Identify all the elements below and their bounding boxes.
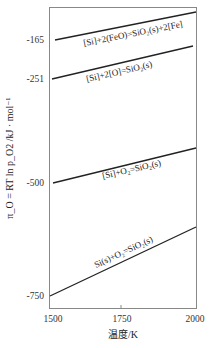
y-tick-label: -500 (27, 178, 45, 188)
plot-frame (50, 8, 197, 309)
x-axis-title: 温度/K (108, 328, 139, 340)
series-label: [Si]+2(FeO)=SiO₂(s)+2[Fe] (82, 19, 183, 48)
series-line-si-s-o2 (50, 227, 196, 296)
y-tick-label: -750 (27, 291, 45, 301)
series-label: [Si]+O₂=SiO₂(s) (101, 158, 162, 181)
y-tick-label: -165 (27, 35, 45, 45)
series-label: Si(s)+O₂=SiO₂(s) (93, 234, 155, 270)
x-tick-label: 2000 (186, 314, 205, 324)
y-tick-label: -251 (27, 74, 45, 84)
x-tick-label: 1500 (44, 314, 63, 324)
y-axis-title: π_O = RT ln p_O2 /kJ · mol⁻¹ (4, 97, 15, 218)
x-tick-label: 1750 (113, 314, 132, 324)
chart: -165 -251 -500 -750 1500 1750 2000 温度/K … (0, 0, 212, 348)
